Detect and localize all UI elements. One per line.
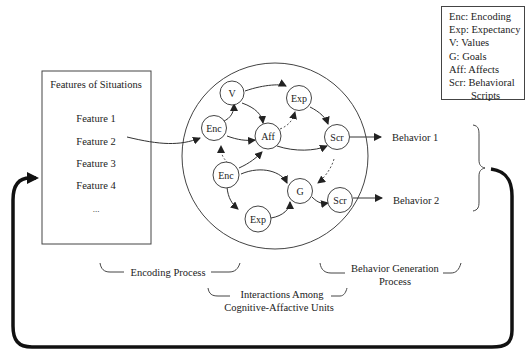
cognitive-affective-system-circle <box>182 63 368 249</box>
node-enc-top: Enc <box>202 116 227 141</box>
feature-3: Feature 3 <box>76 158 115 169</box>
node-scr-top: Scr <box>325 125 350 150</box>
node-scr-bottom: Scr <box>328 188 353 213</box>
node-exp-top: Exp <box>287 86 312 111</box>
node-g: G <box>288 179 313 204</box>
legend-item-scr: Scr: Behavioral <box>449 76 524 89</box>
feature-2: Feature 2 <box>76 136 115 147</box>
behavior-generation-label-line2: Process <box>379 276 411 287</box>
features-title: Features of Situations <box>50 79 142 90</box>
edge-scr-g <box>318 159 334 183</box>
node-v: V <box>220 81 244 105</box>
svg-text:Exp: Exp <box>291 93 307 104</box>
behavior-2-label: Behavior 2 <box>393 195 439 206</box>
legend-item-scr-cont: Scripts <box>449 89 524 102</box>
legend-item-enc: Enc: Encoding <box>449 10 524 23</box>
svg-text:Exp: Exp <box>250 214 266 225</box>
edge-exp-g <box>271 202 290 218</box>
interactions-label-line2: Cognitive-Affactive Units <box>224 302 334 313</box>
node-exp-bottom: Exp <box>245 206 271 232</box>
legend-item-v: V: Values <box>449 36 524 49</box>
edge-aff-scr <box>277 146 327 150</box>
edge-enc-v <box>222 104 234 122</box>
svg-text:Enc: Enc <box>206 123 222 134</box>
svg-text:Enc: Enc <box>218 170 234 181</box>
feature-1: Feature 1 <box>76 113 115 124</box>
interactions-label-line1: Interactions Among <box>240 289 324 300</box>
edge-encb-exp <box>227 187 238 209</box>
svg-text:G: G <box>296 186 303 197</box>
node-enc-bottom: Enc <box>213 162 239 188</box>
behaviors-brace <box>473 125 485 211</box>
edge-encb-enc <box>221 146 228 163</box>
svg-text:Aff: Aff <box>261 131 275 142</box>
edge-encb-aff <box>239 152 262 168</box>
behavior-1-label: Behavior 1 <box>392 132 438 143</box>
edge-v-aff <box>242 103 263 123</box>
node-aff: Aff <box>255 123 281 149</box>
legend-item-exp: Exp: Expectancy <box>449 23 524 36</box>
feature-more: ... <box>93 204 100 214</box>
legend-item-aff: Aff: Affects <box>449 63 524 76</box>
edge-exp-scr <box>310 107 328 124</box>
edge-aff-exp <box>280 112 295 129</box>
feature-to-enc-arrow <box>127 137 200 144</box>
svg-text:Scr: Scr <box>333 195 347 206</box>
behavior-generation-label-line1: Behavior Generation <box>351 263 440 274</box>
edge-encb-g <box>241 170 287 183</box>
edge-v-exp <box>245 85 286 91</box>
svg-text:Scr: Scr <box>330 132 344 143</box>
legend-box: Enc: Encoding Exp: Expectancy V: Values … <box>441 6 525 100</box>
feature-4: Feature 4 <box>76 180 116 191</box>
svg-text:V: V <box>228 88 236 99</box>
edge-enc-aff <box>227 136 255 140</box>
edge-g-scr <box>312 197 328 203</box>
encoding-process-label: Encoding Process <box>131 267 206 278</box>
legend-item-g: G: Goals <box>449 50 524 63</box>
